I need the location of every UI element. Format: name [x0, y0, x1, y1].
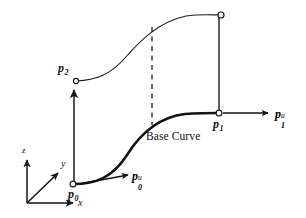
- label-base-curve: Base Curve: [146, 131, 200, 143]
- point-marker-p2: [73, 78, 78, 83]
- label-p1u-subscript: 1: [281, 121, 285, 130]
- axis-y-line: [27, 173, 58, 203]
- point-marker-p1: [216, 110, 222, 116]
- base-curve: [73, 113, 219, 184]
- label-p0u-superscript: u: [138, 173, 142, 182]
- label-p1-base: p: [213, 117, 219, 131]
- label-p0: p0: [68, 188, 79, 203]
- label-p1u-superscript: u: [281, 111, 285, 120]
- axis-label-z: z: [22, 146, 26, 155]
- label-p2-base: p: [58, 61, 64, 75]
- axis-label-x: x: [78, 198, 82, 208]
- upper-curve: [76, 15, 221, 81]
- label-p1: p1: [213, 118, 224, 133]
- label-p1u: pu1: [275, 104, 287, 122]
- label-p0u-subscript: 0: [138, 183, 142, 192]
- figure-canvas: x y z p0 p1 p2 pu0 pu1 Base Curve: [0, 0, 306, 218]
- point-marker-top-right: [218, 12, 224, 18]
- label-p0-base: p: [68, 187, 74, 201]
- label-p1-subscript: 1: [220, 124, 224, 133]
- label-p0-subscript: 0: [75, 194, 79, 203]
- axis-label-y: y: [61, 159, 65, 169]
- label-p2: p2: [58, 62, 69, 77]
- label-p0u: pu0: [132, 166, 144, 184]
- diagram-svg: [0, 0, 306, 218]
- tangent-vector-p0u: [79, 175, 128, 184]
- label-p2-subscript: 2: [65, 68, 69, 77]
